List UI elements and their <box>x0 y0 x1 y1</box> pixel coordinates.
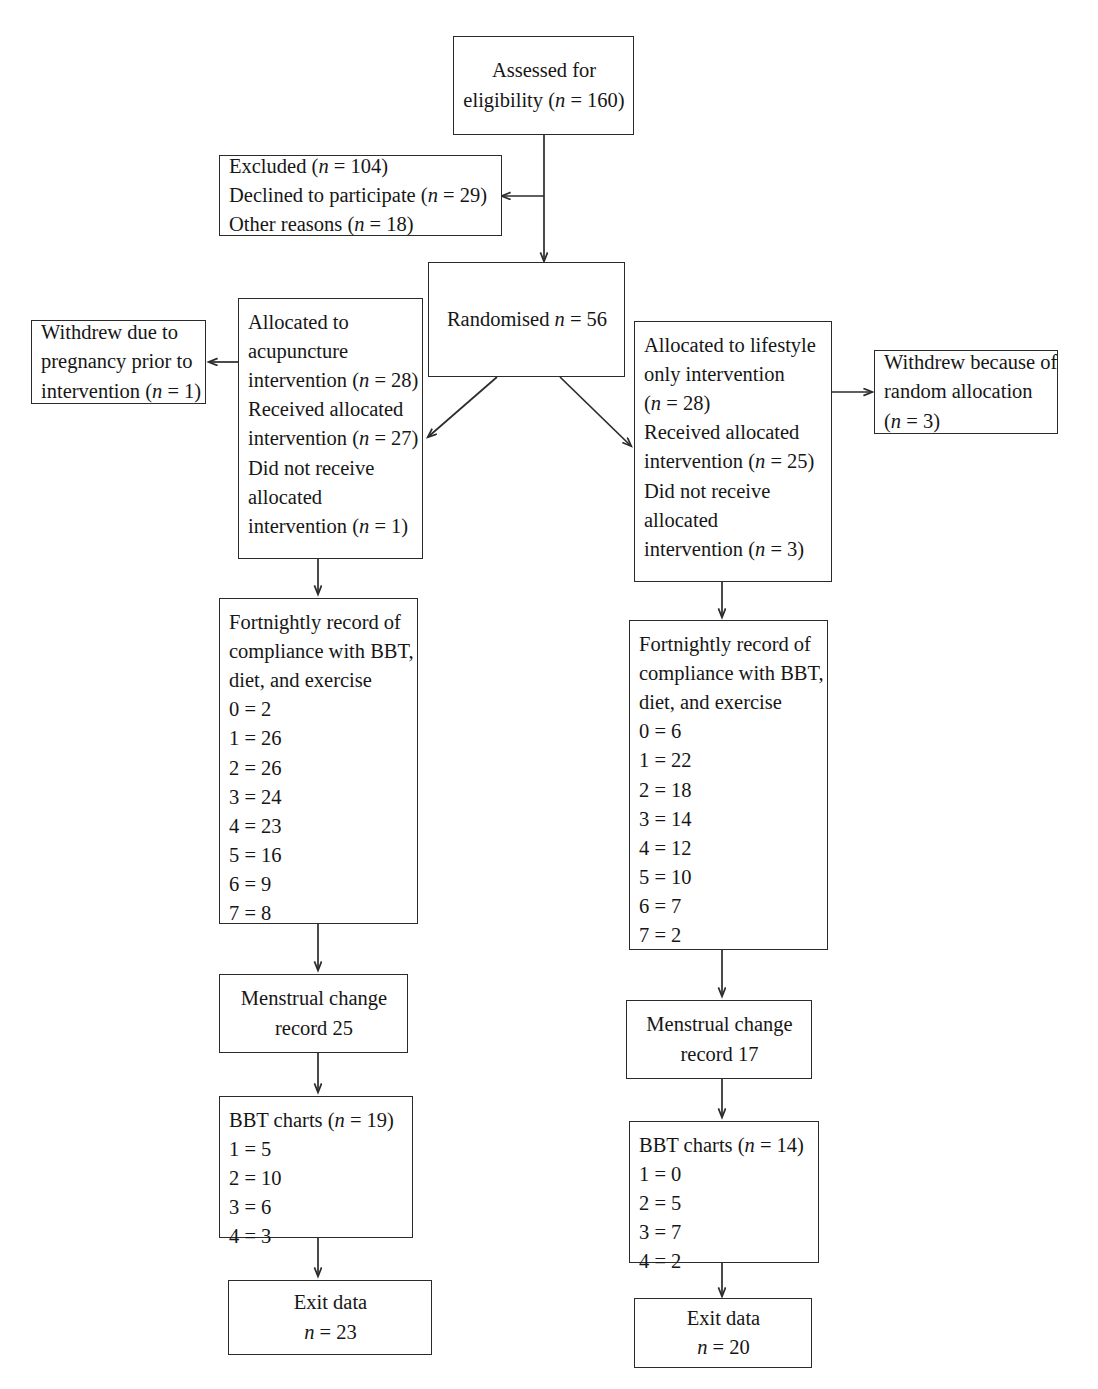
compliance-right-row: 5 = 10 <box>639 863 692 892</box>
node-exit-data-acupuncture: Exit data n = 23 <box>228 1280 432 1355</box>
compliance-right-heading-1: Fortnightly record of <box>639 630 811 659</box>
menstrual-right-row-2: record 17 <box>681 1040 759 1069</box>
bbt-right-row: 1 = 0 <box>639 1160 681 1189</box>
bbt-right-row: 4 = 2 <box>639 1247 681 1276</box>
exit-left-row-1: Exit data <box>294 1288 367 1317</box>
node-bbt-charts-lifestyle: BBT charts (n = 14) 1 = 0 2 = 5 3 = 7 4 … <box>629 1121 819 1263</box>
bbt-left-row: 1 = 5 <box>229 1135 271 1164</box>
excluded-row-2: Declined to participate (n = 29) <box>229 181 487 210</box>
assessed-line-1: Assessed for <box>492 56 596 85</box>
node-exit-data-lifestyle: Exit data n = 20 <box>634 1298 812 1368</box>
node-allocated-lifestyle: Allocated to lifestyle only intervention… <box>634 321 832 582</box>
assessed-line-2: eligibility (n = 160) <box>463 86 624 115</box>
alloc-acupuncture-row-7: allocated <box>248 483 322 512</box>
compliance-left-row: 0 = 2 <box>229 695 271 724</box>
compliance-right-row: 0 = 6 <box>639 717 681 746</box>
alloc-lifestyle-row-6: Did not receive <box>644 477 770 506</box>
alloc-acupuncture-row-8: intervention (n = 1) <box>248 512 408 541</box>
compliance-left-row: 1 = 26 <box>229 724 282 753</box>
alloc-lifestyle-row-2: only intervention <box>644 360 785 389</box>
node-excluded: Excluded (n = 104) Declined to participa… <box>219 155 502 236</box>
exit-left-row-2: n = 23 <box>304 1318 357 1347</box>
alloc-lifestyle-row-3: (n = 28) <box>644 389 710 418</box>
compliance-right-row: 7 = 2 <box>639 921 681 950</box>
alloc-lifestyle-row-4: Received allocated <box>644 418 799 447</box>
node-allocated-acupuncture: Allocated to acupuncture intervention (n… <box>238 298 423 559</box>
connector-layer <box>0 0 1098 1389</box>
compliance-right-row: 6 = 7 <box>639 892 681 921</box>
alloc-acupuncture-row-4: Received allocated <box>248 395 403 424</box>
bbt-left-row: 2 = 10 <box>229 1164 282 1193</box>
bbt-left-heading: BBT charts (n = 19) <box>229 1106 394 1135</box>
compliance-left-heading-2: compliance with BBT, <box>229 637 414 666</box>
compliance-left-row: 6 = 9 <box>229 870 271 899</box>
edge-randomised-to-acupuncture <box>428 377 497 437</box>
compliance-left-row: 2 = 26 <box>229 754 282 783</box>
consort-flow-diagram: Assessed for eligibility (n = 160) Exclu… <box>0 0 1098 1389</box>
bbt-left-row: 3 = 6 <box>229 1193 271 1222</box>
menstrual-left-row-1: Menstrual change <box>241 984 387 1013</box>
node-assessed-for-eligibility: Assessed for eligibility (n = 160) <box>453 36 634 135</box>
node-withdrew-random-allocation: Withdrew because of random allocation (n… <box>874 350 1058 434</box>
withdrew-pregnancy-row-3: intervention (n = 1) <box>41 377 201 406</box>
compliance-right-heading-3: diet, and exercise <box>639 688 782 717</box>
compliance-right-heading-2: compliance with BBT, <box>639 659 824 688</box>
exit-right-row-2: n = 20 <box>697 1333 750 1362</box>
withdrew-allocation-row-2: random allocation <box>884 377 1033 406</box>
withdrew-pregnancy-row-1: Withdrew due to <box>41 318 178 347</box>
edge-randomised-to-lifestyle <box>560 377 631 446</box>
compliance-left-row: 7 = 8 <box>229 899 271 928</box>
excluded-row-1: Excluded (n = 104) <box>229 152 388 181</box>
alloc-acupuncture-row-1: Allocated to <box>248 308 349 337</box>
alloc-lifestyle-row-7: allocated <box>644 506 718 535</box>
alloc-acupuncture-row-5: intervention (n = 27) <box>248 424 418 453</box>
menstrual-right-row-1: Menstrual change <box>646 1010 792 1039</box>
bbt-right-row: 3 = 7 <box>639 1218 681 1247</box>
alloc-lifestyle-row-1: Allocated to lifestyle <box>644 331 816 360</box>
node-bbt-charts-acupuncture: BBT charts (n = 19) 1 = 5 2 = 10 3 = 6 4… <box>219 1096 413 1238</box>
excluded-row-3: Other reasons (n = 18) <box>229 210 414 239</box>
withdrew-allocation-row-3: (n = 3) <box>884 407 940 436</box>
alloc-acupuncture-row-2: acupuncture <box>248 337 348 366</box>
compliance-right-row: 4 = 12 <box>639 834 692 863</box>
withdrew-allocation-row-1: Withdrew because of <box>884 348 1057 377</box>
node-compliance-acupuncture: Fortnightly record of compliance with BB… <box>219 598 418 924</box>
compliance-right-row: 1 = 22 <box>639 746 692 775</box>
node-compliance-lifestyle: Fortnightly record of compliance with BB… <box>629 620 828 950</box>
alloc-acupuncture-row-3: intervention (n = 28) <box>248 366 418 395</box>
alloc-lifestyle-row-8: intervention (n = 3) <box>644 535 804 564</box>
compliance-right-row: 3 = 14 <box>639 805 692 834</box>
compliance-left-heading-1: Fortnightly record of <box>229 608 401 637</box>
alloc-acupuncture-row-6: Did not receive <box>248 454 374 483</box>
node-withdrew-pregnancy: Withdrew due to pregnancy prior to inter… <box>31 320 206 404</box>
alloc-lifestyle-row-5: intervention (n = 25) <box>644 447 814 476</box>
compliance-left-heading-3: diet, and exercise <box>229 666 372 695</box>
compliance-left-row: 5 = 16 <box>229 841 282 870</box>
compliance-left-row: 3 = 24 <box>229 783 282 812</box>
exit-right-row-1: Exit data <box>687 1304 760 1333</box>
node-menstrual-record-lifestyle: Menstrual change record 17 <box>626 1000 812 1079</box>
compliance-right-row: 2 = 18 <box>639 776 692 805</box>
node-randomised: Randomised n = 56 <box>428 262 625 377</box>
bbt-right-heading: BBT charts (n = 14) <box>639 1131 804 1160</box>
menstrual-left-row-2: record 25 <box>275 1014 353 1043</box>
node-menstrual-record-acupuncture: Menstrual change record 25 <box>219 974 408 1053</box>
randomised-label: Randomised n = 56 <box>447 305 607 334</box>
compliance-left-row: 4 = 23 <box>229 812 282 841</box>
withdrew-pregnancy-row-2: pregnancy prior to <box>41 347 192 376</box>
bbt-right-row: 2 = 5 <box>639 1189 681 1218</box>
bbt-left-row: 4 = 3 <box>229 1222 271 1251</box>
